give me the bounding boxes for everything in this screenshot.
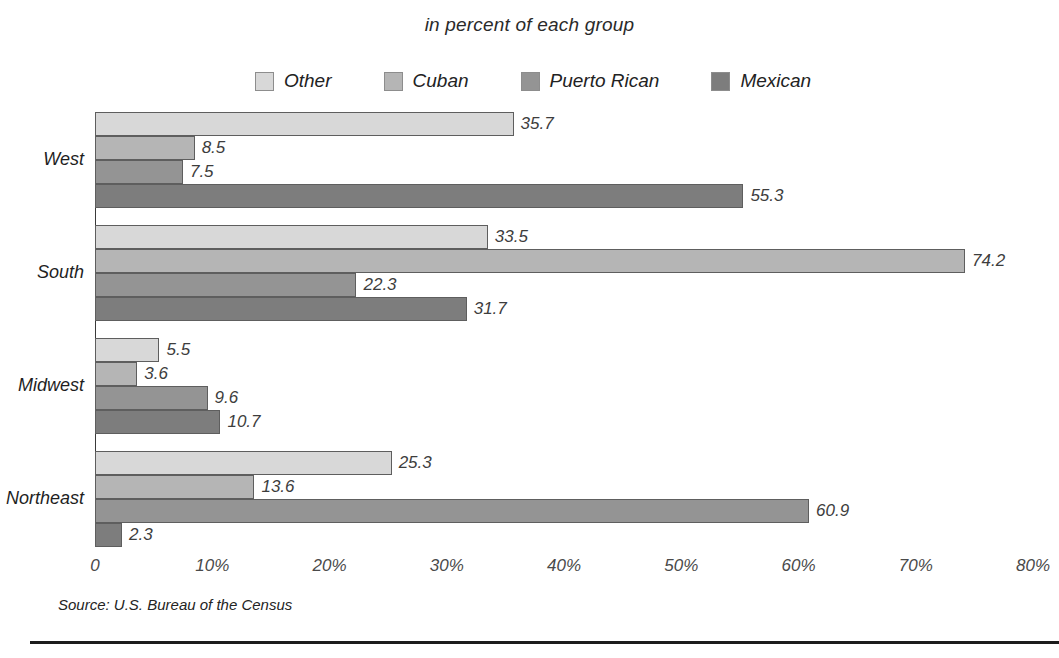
legend-label-puerto-rican: Puerto Rican bbox=[550, 70, 660, 92]
bar-northeast-cuban[interactable] bbox=[95, 475, 254, 499]
bar-row: 74.2 bbox=[95, 249, 1059, 273]
bar-value-northeast-mexican: 2.3 bbox=[129, 524, 153, 546]
legend-label-other: Other bbox=[284, 70, 332, 92]
legend-item-mexican: Mexican bbox=[711, 70, 811, 92]
bar-midwest-other[interactable] bbox=[95, 338, 159, 362]
bar-value-midwest-other: 5.5 bbox=[166, 339, 190, 361]
bar-value-south-cuban: 74.2 bbox=[972, 250, 1005, 272]
group-label-midwest: Midwest bbox=[0, 375, 84, 396]
bar-value-south-puerto-rican: 22.3 bbox=[363, 274, 396, 296]
legend-label-mexican: Mexican bbox=[740, 70, 811, 92]
x-tick-50: 50% bbox=[664, 556, 698, 576]
bar-value-northeast-puerto-rican: 60.9 bbox=[816, 500, 849, 522]
x-tick-10: 10% bbox=[195, 556, 229, 576]
bar-value-west-mexican: 55.3 bbox=[750, 185, 783, 207]
x-tick-80: 80% bbox=[1016, 556, 1050, 576]
x-tick-60: 60% bbox=[781, 556, 815, 576]
bar-value-south-other: 33.5 bbox=[495, 226, 528, 248]
legend-swatch-cuban bbox=[384, 72, 403, 91]
chart-legend: Other Cuban Puerto Rican Mexican bbox=[255, 70, 811, 92]
x-tick-20: 20% bbox=[312, 556, 346, 576]
group-label-northeast: Northeast bbox=[0, 488, 84, 509]
x-tick-0: 0 bbox=[90, 556, 99, 576]
bar-south-cuban[interactable] bbox=[95, 249, 965, 273]
bar-row: 3.6 bbox=[95, 362, 1059, 386]
bar-midwest-puerto-rican[interactable] bbox=[95, 386, 208, 410]
bar-row: 33.5 bbox=[95, 225, 1059, 249]
legend-swatch-other bbox=[255, 72, 274, 91]
group-label-south: South bbox=[0, 262, 84, 283]
x-tick-70: 70% bbox=[899, 556, 933, 576]
bar-group-west: West35.78.57.555.3 bbox=[0, 112, 1059, 208]
bottom-divider bbox=[30, 641, 1059, 644]
legend-item-cuban: Cuban bbox=[384, 70, 469, 92]
bar-row: 22.3 bbox=[95, 273, 1059, 297]
bar-value-south-mexican: 31.7 bbox=[474, 298, 507, 320]
bar-south-puerto-rican[interactable] bbox=[95, 273, 356, 297]
bar-northeast-other[interactable] bbox=[95, 451, 392, 475]
bar-row: 55.3 bbox=[95, 184, 1059, 208]
bar-row: 7.5 bbox=[95, 160, 1059, 184]
bar-south-other[interactable] bbox=[95, 225, 488, 249]
bar-row: 9.6 bbox=[95, 386, 1059, 410]
x-tick-40: 40% bbox=[547, 556, 581, 576]
bar-row: 8.5 bbox=[95, 136, 1059, 160]
bar-value-west-other: 35.7 bbox=[521, 113, 554, 135]
bar-value-midwest-puerto-rican: 9.6 bbox=[215, 387, 239, 409]
bar-row: 35.7 bbox=[95, 112, 1059, 136]
bar-row: 13.6 bbox=[95, 475, 1059, 499]
bar-northeast-mexican[interactable] bbox=[95, 523, 122, 547]
bar-row: 5.5 bbox=[95, 338, 1059, 362]
bar-south-mexican[interactable] bbox=[95, 297, 467, 321]
legend-item-puerto-rican: Puerto Rican bbox=[521, 70, 660, 92]
bar-value-west-cuban: 8.5 bbox=[202, 137, 226, 159]
bar-midwest-mexican[interactable] bbox=[95, 410, 220, 434]
bar-group-northeast: Northeast25.313.660.92.3 bbox=[0, 451, 1059, 547]
legend-label-cuban: Cuban bbox=[413, 70, 469, 92]
chart-title: in percent of each group bbox=[0, 14, 1059, 36]
bar-value-midwest-mexican: 10.7 bbox=[227, 411, 260, 433]
bar-midwest-cuban[interactable] bbox=[95, 362, 137, 386]
bar-row: 31.7 bbox=[95, 297, 1059, 321]
x-tick-30: 30% bbox=[430, 556, 464, 576]
group-label-west: West bbox=[0, 149, 84, 170]
bar-value-northeast-cuban: 13.6 bbox=[261, 476, 294, 498]
bar-group-midwest: Midwest5.53.69.610.7 bbox=[0, 338, 1059, 434]
source-note: Source: U.S. Bureau of the Census bbox=[58, 596, 292, 613]
bar-group-south: South33.574.222.331.7 bbox=[0, 225, 1059, 321]
plot-area: West35.78.57.555.3South33.574.222.331.7M… bbox=[0, 112, 1059, 552]
bar-west-puerto-rican[interactable] bbox=[95, 160, 183, 184]
bar-value-west-puerto-rican: 7.5 bbox=[190, 161, 214, 183]
x-axis: 010%20%30%40%50%60%70%80% bbox=[0, 556, 1059, 586]
legend-swatch-mexican bbox=[711, 72, 730, 91]
bar-row: 2.3 bbox=[95, 523, 1059, 547]
bar-value-midwest-cuban: 3.6 bbox=[144, 363, 168, 385]
bar-row: 60.9 bbox=[95, 499, 1059, 523]
legend-item-other: Other bbox=[255, 70, 332, 92]
bar-west-mexican[interactable] bbox=[95, 184, 743, 208]
legend-swatch-puerto-rican bbox=[521, 72, 540, 91]
bar-northeast-puerto-rican[interactable] bbox=[95, 499, 809, 523]
bar-west-cuban[interactable] bbox=[95, 136, 195, 160]
bar-row: 10.7 bbox=[95, 410, 1059, 434]
bar-west-other[interactable] bbox=[95, 112, 514, 136]
bar-value-northeast-other: 25.3 bbox=[399, 452, 432, 474]
bar-row: 25.3 bbox=[95, 451, 1059, 475]
